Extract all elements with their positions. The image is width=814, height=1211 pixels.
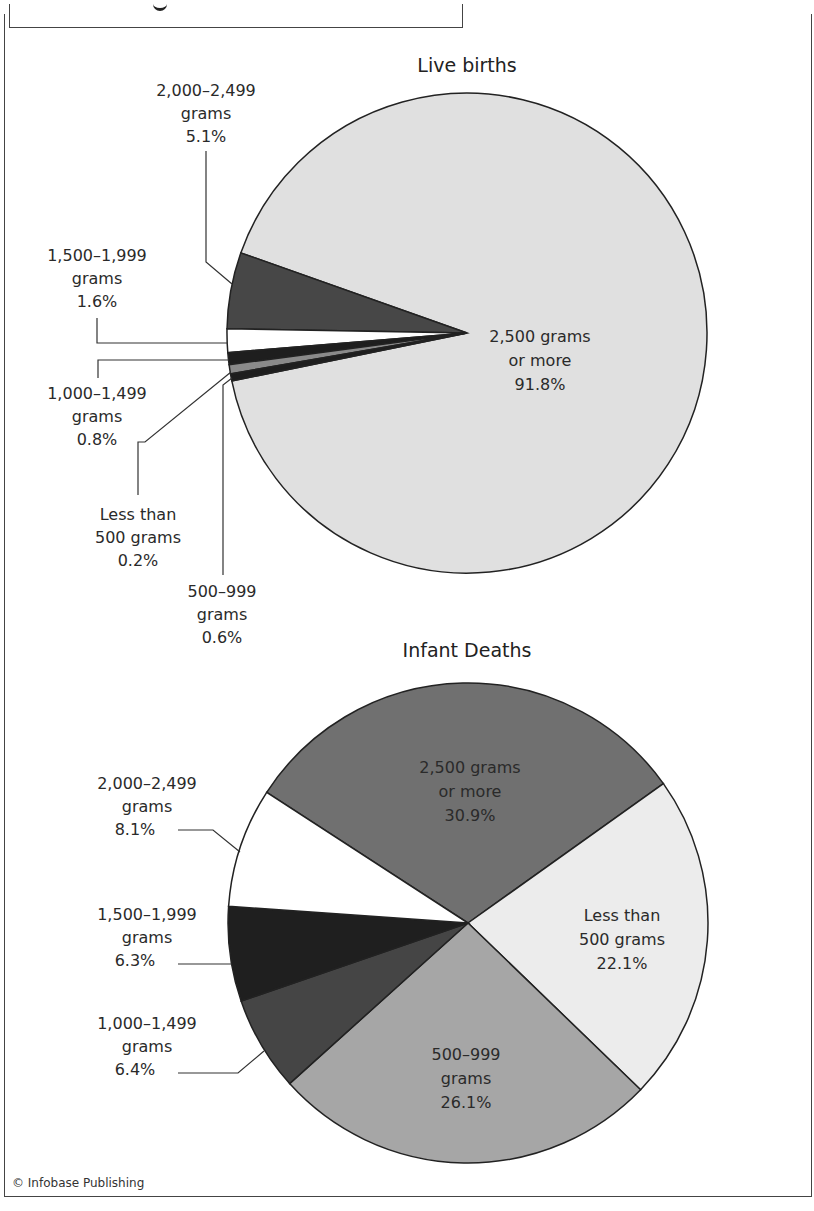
deaths-label-500-999-line2: grams: [441, 1069, 491, 1088]
deaths-label-2000-2499-line2: grams: [122, 797, 172, 816]
live-label-lt500-line1: Less than: [100, 505, 177, 524]
deaths-label-1500-1999-line2: grams: [122, 928, 172, 947]
live-label-2500-plus-line2: or more: [509, 351, 572, 370]
deaths-label-2500-plus-line1: 2,500 grams: [419, 758, 520, 777]
copyright-credit: © Infobase Publishing: [12, 1176, 144, 1190]
infant-deaths-chart: Infant Deaths 2,500 grams or more 30.9% …: [97, 639, 708, 1163]
live-births-chart: Live births 2,500 grams or more 91.8% 2,…: [47, 54, 707, 647]
deaths-label-1000-1499-line2: grams: [122, 1037, 172, 1056]
live-label-1000-1499-line1: 1,000–1,499: [47, 384, 147, 403]
deaths-label-2500-plus-line3: 30.9%: [445, 806, 496, 825]
live-leader-lt500: [138, 372, 231, 495]
live-label-1000-1499-line3: 0.8%: [77, 430, 118, 449]
live-leader-1000-1499: [98, 360, 229, 378]
live-label-2000-2499-line2: grams: [181, 104, 231, 123]
live-leader-500-999: [223, 378, 232, 575]
live-births-title: Live births: [417, 54, 516, 76]
live-label-2000-2499-line1: 2,000–2,499: [156, 81, 256, 100]
live-label-1500-1999-line2: grams: [72, 269, 122, 288]
live-label-lt500-line3: 0.2%: [118, 551, 159, 570]
live-label-1000-1499-line2: grams: [72, 407, 122, 426]
deaths-label-lt500-line3: 22.1%: [597, 954, 648, 973]
live-label-lt500-line2: 500 grams: [95, 528, 181, 547]
live-label-500-999-line1: 500–999: [187, 582, 256, 601]
deaths-label-500-999-line3: 26.1%: [441, 1093, 492, 1112]
live-label-2500-plus-line1: 2,500 grams: [489, 327, 590, 346]
live-label-2500-plus-line3: 91.8%: [515, 375, 566, 394]
live-label-1500-1999-line3: 1.6%: [77, 292, 118, 311]
deaths-label-500-999-line1: 500–999: [431, 1045, 500, 1064]
live-label-500-999-line3: 0.6%: [202, 628, 243, 647]
deaths-leader-1000-1499: [178, 1051, 264, 1073]
deaths-leader-2000-2499: [178, 830, 240, 852]
deaths-label-1000-1499-line3: 6.4%: [115, 1060, 156, 1079]
deaths-label-lt500-line1: Less than: [584, 906, 661, 925]
charts-canvas: Live births 2,500 grams or more 91.8% 2,…: [0, 0, 814, 1211]
live-label-2000-2499-line3: 5.1%: [186, 127, 227, 146]
live-leader-1500-1999: [97, 318, 228, 343]
deaths-label-lt500-line2: 500 grams: [579, 930, 665, 949]
deaths-label-1500-1999-line1: 1,500–1,999: [97, 905, 197, 924]
live-leader-2000-2499: [206, 151, 232, 284]
deaths-label-2500-plus-line2: or more: [439, 782, 502, 801]
deaths-label-1500-1999-line3: 6.3%: [115, 951, 156, 970]
infant-deaths-title: Infant Deaths: [403, 639, 532, 661]
live-label-500-999-line2: grams: [197, 605, 247, 624]
live-label-1500-1999-line1: 1,500–1,999: [47, 246, 147, 265]
deaths-label-1000-1499-line1: 1,000–1,499: [97, 1014, 197, 1033]
deaths-label-2000-2499-line1: 2,000–2,499: [97, 774, 197, 793]
deaths-label-2000-2499-line3: 8.1%: [115, 820, 156, 839]
